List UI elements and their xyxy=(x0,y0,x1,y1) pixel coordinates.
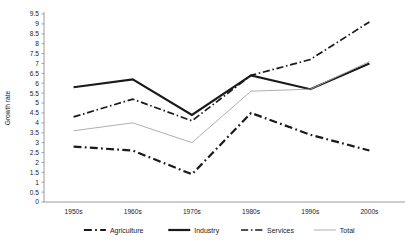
y-tick-label: 1.5 xyxy=(30,169,39,176)
y-tick-label: 5.5 xyxy=(30,90,39,97)
y-tick-label: 7.5 xyxy=(30,50,39,57)
legend-label-industry: Industry xyxy=(194,227,219,235)
y-tick-label: 8.5 xyxy=(30,30,39,37)
x-tick-label: 1950s xyxy=(65,208,84,215)
x-tick-label: 1980s xyxy=(242,208,261,215)
x-axis-tick-labels: 1950s1960s1970s1980s1990s2000s xyxy=(65,208,380,215)
chart-legend: AgricultureIndustryServicesTotal xyxy=(84,227,355,235)
series-line-agriculture xyxy=(74,113,370,174)
y-tick-label: 0 xyxy=(35,198,39,205)
legend-label-agriculture: Agriculture xyxy=(110,227,144,235)
legend-item-services[interactable]: Services xyxy=(241,227,294,234)
y-tick-label: 5 xyxy=(35,99,39,106)
y-tick-label: 0.5 xyxy=(30,189,39,196)
x-tick-label: 1970s xyxy=(183,208,202,215)
y-axis-tick-labels: 9.598.587.576.565.554.543.532.521.510.50 xyxy=(30,10,44,205)
y-tick-label: 9.5 xyxy=(30,10,39,17)
y-axis-title: Growth rate xyxy=(4,90,11,125)
y-tick-label: 3.5 xyxy=(30,129,39,136)
legend-item-industry[interactable]: Industry xyxy=(168,227,219,235)
legend-item-agriculture[interactable]: Agriculture xyxy=(84,227,144,235)
y-tick-label: 8 xyxy=(35,40,39,47)
y-tick-label: 6 xyxy=(35,80,39,87)
legend-item-total[interactable]: Total xyxy=(314,227,355,234)
series-line-total xyxy=(74,61,370,142)
growth-rate-line-chart: Growth rate 9.598.587.576.565.554.543.53… xyxy=(0,0,407,244)
y-tick-label: 2 xyxy=(35,159,39,166)
y-tick-label: 3 xyxy=(35,139,39,146)
y-tick-label: 6.5 xyxy=(30,70,39,77)
y-tick-label: 9 xyxy=(35,20,39,27)
data-series-lines xyxy=(74,22,370,174)
chart-canvas: Growth rate 9.598.587.576.565.554.543.53… xyxy=(0,0,407,244)
y-tick-label: 2.5 xyxy=(30,149,39,156)
y-tick-label: 4.5 xyxy=(30,109,39,116)
y-tick-label: 4 xyxy=(35,119,39,126)
y-tick-label: 7 xyxy=(35,60,39,67)
axis-lines xyxy=(44,12,405,202)
y-tick-label: 1 xyxy=(35,179,39,186)
series-line-services xyxy=(74,22,370,121)
legend-label-total: Total xyxy=(340,227,355,234)
x-tick-label: 2000s xyxy=(360,208,379,215)
series-line-industry xyxy=(74,63,370,114)
y-axis-title-text: Growth rate xyxy=(4,90,11,125)
legend-label-services: Services xyxy=(267,227,294,234)
x-tick-label: 1960s xyxy=(124,208,143,215)
x-tick-label: 1990s xyxy=(301,208,320,215)
